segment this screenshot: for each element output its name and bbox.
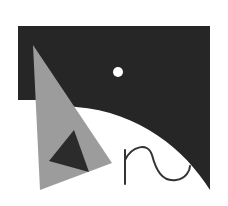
white-dot (113, 67, 123, 77)
artwork-canvas (0, 0, 228, 206)
abstract-artwork (0, 0, 228, 206)
